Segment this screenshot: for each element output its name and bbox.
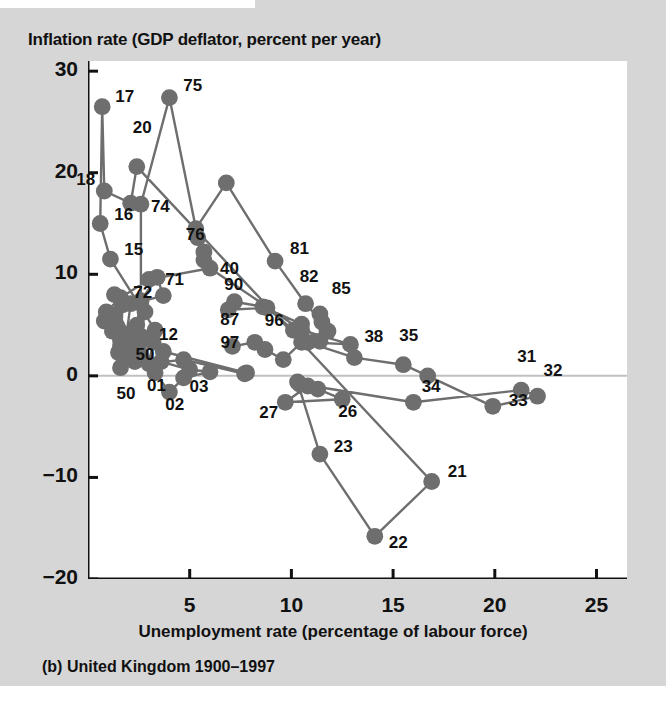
point-label-35: 35 [399, 326, 418, 346]
point-label-12: 12 [159, 325, 178, 345]
point-label-34: 34 [422, 377, 441, 397]
scatter-plot-svg [88, 61, 627, 579]
point-label-17: 17 [115, 87, 134, 107]
point-label-72: 72 [133, 283, 152, 303]
point-label-38: 38 [364, 327, 383, 347]
point-label-15: 15 [124, 240, 143, 260]
point-label-76: 76 [186, 225, 205, 245]
point-label-82: 82 [300, 267, 319, 287]
point-label-81: 81 [290, 239, 309, 259]
x-tick-25: 25 [576, 593, 616, 617]
point-label-32: 32 [544, 361, 563, 381]
point-label-21: 21 [448, 462, 467, 482]
point-label-22: 22 [389, 533, 408, 553]
point-label-20: 20 [133, 118, 152, 138]
point-label-33: 33 [509, 391, 528, 411]
figure-page: Inflation rate (GDP deflator, percent pe… [0, 0, 666, 714]
point-label-23: 23 [334, 437, 353, 457]
y-axis-title: Inflation rate (GDP deflator, percent pe… [28, 30, 381, 50]
point-label-87: 87 [220, 310, 239, 330]
point-label-96: 96 [265, 311, 284, 331]
point-label-03: 03 [190, 377, 209, 397]
point-label-97: 97 [220, 333, 239, 353]
x-tick-10: 10 [271, 593, 311, 617]
point-label-50: 50 [116, 384, 135, 404]
point-label-18: 18 [76, 170, 95, 190]
point-label-50: 50 [136, 345, 155, 365]
figure-caption: (b) United Kingdom 1900–1997 [42, 658, 275, 676]
x-axis-title: Unemployment rate (percentage of labour … [0, 622, 666, 642]
x-tick-5: 5 [170, 593, 210, 617]
point-label-31: 31 [517, 347, 536, 367]
y-tick--20: −20 [22, 565, 78, 589]
point-label-74: 74 [151, 197, 170, 217]
point-label-26: 26 [338, 402, 357, 422]
point-label-90: 90 [224, 275, 243, 295]
point-label-16: 16 [114, 205, 133, 225]
page-bottom-strip [0, 686, 666, 714]
y-tick-30: 30 [22, 57, 78, 81]
y-tick-20: 20 [22, 159, 78, 183]
point-label-75: 75 [183, 76, 202, 96]
point-label-02: 02 [165, 395, 184, 415]
point-label-01: 01 [147, 376, 166, 396]
x-tick-15: 15 [373, 593, 413, 617]
y-tick--10: −10 [22, 463, 78, 487]
y-tick-10: 10 [22, 260, 78, 284]
plot-area [88, 61, 627, 579]
y-tick-0: 0 [22, 362, 78, 386]
point-label-85: 85 [332, 279, 351, 299]
x-tick-20: 20 [475, 593, 515, 617]
point-label-27: 27 [259, 403, 278, 423]
page-top-notch [0, 0, 255, 8]
point-label-71: 71 [165, 270, 184, 290]
